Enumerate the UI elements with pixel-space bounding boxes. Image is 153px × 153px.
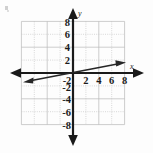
x-tick-label-4: 4: [96, 75, 102, 86]
y-tick-label-neg8: -8: [62, 120, 71, 131]
y-tick-label-8: 8: [65, 17, 70, 28]
x-tick-label-6: 6: [109, 75, 114, 86]
x-tick-label-2: 2: [83, 75, 88, 86]
graph-screenshot: x y 8 6 4 2 -2 -4 -6 -8 -2 2 4 6 8: [0, 0, 153, 153]
y-tick-label-neg6: -6: [62, 107, 71, 118]
plot-line-left-arrowhead: [23, 77, 34, 83]
x-axis-left-arrowhead: [10, 68, 21, 78]
y-axis-label: y: [77, 9, 82, 18]
y-tick-label-neg4: -4: [62, 94, 71, 105]
x-tick-label-neg2: -2: [63, 75, 72, 86]
scan-artifacts: [5, 6, 9, 12]
y-tick-label-2: 2: [65, 55, 70, 66]
y-axis-bottom-arrowhead: [68, 135, 78, 146]
coordinate-plane-figure: x y 8 6 4 2 -2 -4 -6 -8 -2 2 4 6 8: [0, 0, 153, 153]
y-tick-label-6: 6: [65, 29, 70, 40]
y-tick-label-4: 4: [65, 42, 71, 53]
x-axis-right-arrowhead: [133, 68, 144, 78]
x-tick-label-8: 8: [122, 75, 127, 86]
x-axis-label: x: [129, 62, 134, 71]
